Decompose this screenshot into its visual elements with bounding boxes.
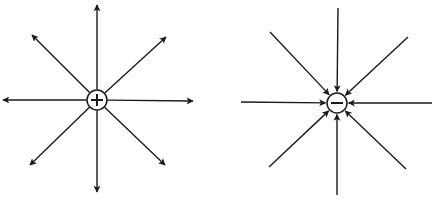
field-line-arrow	[345, 111, 406, 169]
field-line-arrow	[105, 107, 165, 165]
field-line-arrow	[337, 8, 338, 92]
field-line-arrow	[32, 35, 90, 93]
field-line-arrow	[269, 111, 329, 167]
field-line-arrow	[345, 37, 408, 95]
negative-charge-field	[241, 8, 432, 195]
field-line-arrow	[30, 107, 89, 165]
field-line-arrow	[105, 37, 166, 93]
field-line-arrow	[107, 100, 193, 101]
field-line-arrow	[270, 32, 329, 95]
field-lines-diagram: Positive charge Negative charge	[0, 0, 432, 201]
field-line-arrow	[241, 102, 326, 103]
diagram-canvas	[0, 0, 432, 201]
positive-charge-field	[3, 5, 193, 192]
